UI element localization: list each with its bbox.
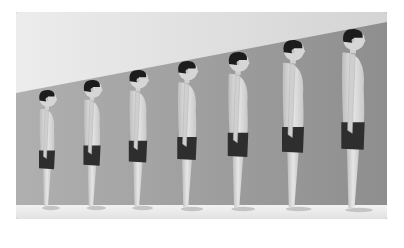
growth-scene (16, 12, 387, 219)
growth-illustration: Illustration of seven male figures shown… (16, 12, 387, 219)
floor (16, 205, 387, 219)
